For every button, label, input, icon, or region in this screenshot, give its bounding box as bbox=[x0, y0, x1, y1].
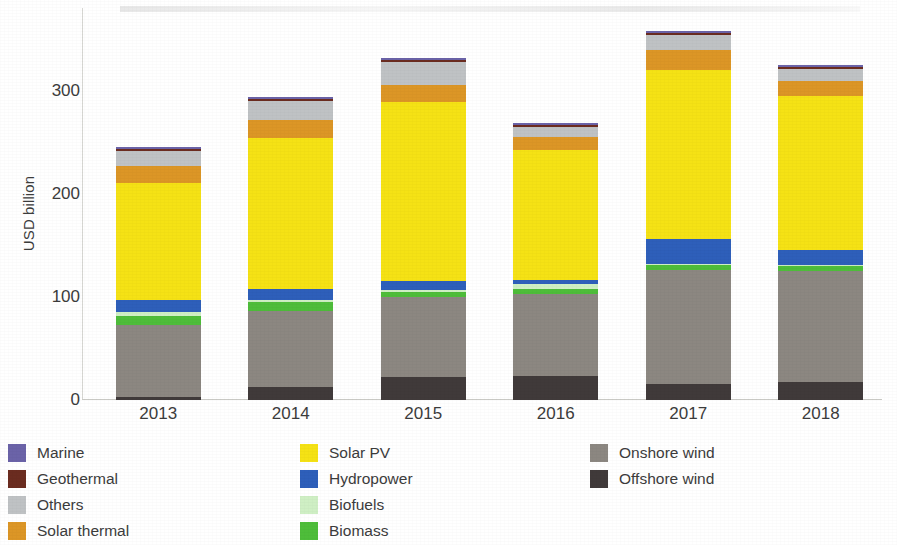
legend-item[interactable]: Hydropower bbox=[300, 466, 413, 492]
bar-segment bbox=[646, 384, 731, 401]
bar-group bbox=[92, 8, 887, 400]
bar-segment bbox=[646, 270, 731, 383]
y-axis-line bbox=[82, 8, 83, 400]
stacked-bar[interactable] bbox=[646, 31, 731, 400]
bar-segment bbox=[116, 325, 201, 397]
legend-item[interactable]: Others bbox=[8, 492, 129, 518]
bar-slot bbox=[357, 8, 490, 400]
legend-column-3: Onshore windOffshore wind bbox=[590, 440, 715, 492]
bar-segment bbox=[116, 300, 201, 312]
legend-swatch-icon bbox=[590, 470, 608, 488]
bar-segment bbox=[248, 302, 333, 311]
legend-swatch-icon bbox=[8, 522, 26, 540]
x-tick-label: 2013 bbox=[92, 404, 225, 434]
bar-segment bbox=[248, 101, 333, 121]
bar-segment bbox=[248, 120, 333, 138]
bar-segment bbox=[248, 387, 333, 400]
stacked-bar[interactable] bbox=[778, 65, 863, 400]
legend-swatch-icon bbox=[8, 496, 26, 514]
x-tick-label: 2018 bbox=[755, 404, 888, 434]
legend-label: Others bbox=[37, 496, 84, 514]
legend-item[interactable]: Solar PV bbox=[300, 440, 413, 466]
bar-segment bbox=[646, 50, 731, 70]
bar-segment bbox=[646, 239, 731, 264]
bar-segment bbox=[778, 96, 863, 251]
bar-segment bbox=[513, 294, 598, 377]
legend-label: Solar thermal bbox=[37, 522, 129, 540]
legend-swatch-icon bbox=[8, 444, 26, 462]
legend-label: Geothermal bbox=[37, 470, 118, 488]
legend-item[interactable]: Geothermal bbox=[8, 466, 129, 492]
legend-item[interactable]: Marine bbox=[8, 440, 129, 466]
plot-area: USD billion 3002001000 20132014201520162… bbox=[0, 0, 897, 420]
bar-segment bbox=[513, 376, 598, 400]
legend-column-1: MarineGeothermalOthersSolar thermal bbox=[8, 440, 129, 544]
legend-swatch-icon bbox=[300, 496, 318, 514]
bar-slot bbox=[225, 8, 358, 400]
legend-item[interactable]: Onshore wind bbox=[590, 440, 715, 466]
y-tick-label: 200 bbox=[20, 184, 80, 204]
legend-label: Marine bbox=[37, 444, 84, 462]
legend-item[interactable]: Solar thermal bbox=[8, 518, 129, 544]
bar-segment bbox=[381, 281, 466, 289]
chart-legend: MarineGeothermalOthersSolar thermal Sola… bbox=[0, 440, 897, 545]
x-axis-labels: 201320142015201620172018 bbox=[92, 404, 887, 434]
bar-segment bbox=[248, 138, 333, 289]
bar-segment bbox=[778, 250, 863, 264]
legend-swatch-icon bbox=[300, 470, 318, 488]
bar-segment bbox=[778, 81, 863, 95]
legend-label: Hydropower bbox=[329, 470, 413, 488]
x-tick-label: 2017 bbox=[622, 404, 755, 434]
y-axis-ticks: 3002001000 bbox=[18, 0, 80, 420]
legend-swatch-icon bbox=[300, 522, 318, 540]
bar-segment bbox=[248, 311, 333, 386]
legend-label: Biofuels bbox=[329, 496, 384, 514]
bar-segment bbox=[646, 35, 731, 50]
legend-item[interactable]: Biomass bbox=[300, 518, 413, 544]
legend-label: Biomass bbox=[329, 522, 388, 540]
bar-slot bbox=[755, 8, 888, 400]
bar-segment bbox=[116, 151, 201, 165]
bar-segment bbox=[778, 382, 863, 400]
bar-slot bbox=[490, 8, 623, 400]
bar-segment bbox=[248, 289, 333, 300]
stacked-bar[interactable] bbox=[513, 123, 598, 400]
stacked-bar[interactable] bbox=[116, 147, 201, 400]
legend-column-2: Solar PVHydropowerBiofuelsBiomass bbox=[300, 440, 413, 544]
y-tick-label: 100 bbox=[20, 287, 80, 307]
bar-segment bbox=[116, 397, 201, 400]
bar-segment bbox=[381, 102, 466, 281]
plot-panel bbox=[92, 8, 887, 400]
y-tick-label: 0 bbox=[20, 390, 80, 410]
bar-segment bbox=[381, 62, 466, 86]
y-tick-label: 300 bbox=[20, 81, 80, 101]
bar-segment bbox=[513, 127, 598, 137]
legend-swatch-icon bbox=[300, 444, 318, 462]
bar-segment bbox=[513, 150, 598, 280]
legend-item[interactable]: Offshore wind bbox=[590, 466, 715, 492]
x-tick-label: 2015 bbox=[357, 404, 490, 434]
stacked-bar[interactable] bbox=[248, 97, 333, 400]
legend-swatch-icon bbox=[8, 470, 26, 488]
stacked-bar-chart: USD billion 3002001000 20132014201520162… bbox=[0, 0, 897, 545]
bar-segment bbox=[116, 166, 201, 184]
bar-slot bbox=[92, 8, 225, 400]
bar-segment bbox=[513, 137, 598, 150]
x-tick-label: 2016 bbox=[490, 404, 623, 434]
bar-segment bbox=[778, 271, 863, 382]
bar-segment bbox=[381, 85, 466, 102]
bar-segment bbox=[646, 70, 731, 239]
bar-segment bbox=[116, 316, 201, 324]
legend-swatch-icon bbox=[590, 444, 608, 462]
bar-slot bbox=[622, 8, 755, 400]
legend-label: Solar PV bbox=[329, 444, 390, 462]
x-tick-label: 2014 bbox=[225, 404, 358, 434]
stacked-bar[interactable] bbox=[381, 58, 466, 400]
legend-item[interactable]: Biofuels bbox=[300, 492, 413, 518]
legend-label: Onshore wind bbox=[619, 444, 715, 462]
legend-label: Offshore wind bbox=[619, 470, 714, 488]
bar-segment bbox=[381, 297, 466, 377]
bar-segment bbox=[116, 183, 201, 300]
bar-segment bbox=[778, 69, 863, 81]
bar-segment bbox=[381, 377, 466, 400]
